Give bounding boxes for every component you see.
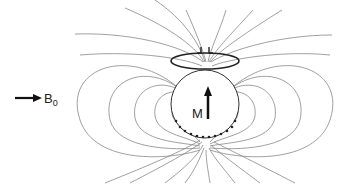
dipole-diagram: M B0 — [0, 0, 342, 196]
external-field-label: B0 — [44, 91, 58, 108]
external-field-arrow-icon — [15, 94, 42, 102]
sphere-label: M — [192, 106, 203, 121]
magnetized-sphere — [171, 70, 239, 138]
